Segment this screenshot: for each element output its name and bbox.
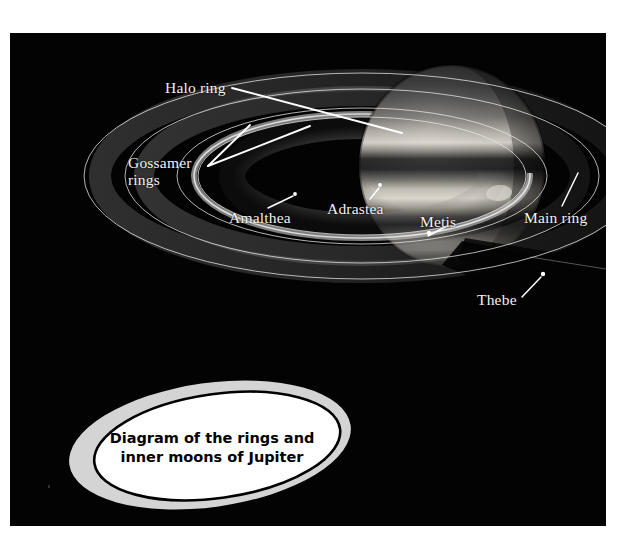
label-adrastea: Adrastea — [327, 200, 384, 217]
dust-speck — [48, 485, 50, 488]
caption-oval-graphic — [65, 378, 355, 513]
label-metis: Metis — [420, 213, 456, 230]
label-amalthea: Amalthea — [229, 209, 291, 226]
label-main-ring: Main ring — [524, 209, 587, 226]
moon-dot-thebe — [541, 272, 545, 276]
label-gossamer-rings: Gossamer rings — [128, 154, 192, 188]
moon-dot-amalthea — [293, 192, 297, 196]
diagram-panel: Halo ring Gossamer rings Amalthea Adrast… — [10, 33, 606, 526]
caption-callout: Diagram of the rings and inner moons of … — [65, 378, 355, 513]
moon-dot-adrastea — [378, 183, 382, 187]
figure-page: Halo ring Gossamer rings Amalthea Adrast… — [0, 0, 641, 551]
label-thebe: Thebe — [477, 291, 517, 308]
label-halo-ring: Halo ring — [165, 79, 226, 96]
